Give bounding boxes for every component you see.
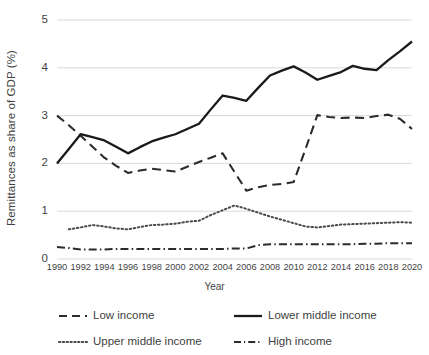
chart-legend: Low income Lower middle income Upper mid… <box>58 303 418 355</box>
legend-label-lower-middle-income: Lower middle income <box>268 310 377 322</box>
legend-swatch-solid-icon <box>233 310 263 322</box>
series-line-low-income <box>57 115 412 191</box>
series-line-lower-middle-income <box>57 42 412 164</box>
legend-swatch-dashdot-icon <box>233 336 263 348</box>
legend-item-upper-middle-income[interactable]: Upper middle income <box>58 336 233 348</box>
legend-item-high-income[interactable]: High income <box>233 336 418 348</box>
legend-item-lower-middle-income[interactable]: Lower middle income <box>233 310 418 322</box>
legend-label-low-income: Low income <box>93 310 154 322</box>
legend-label-high-income: High income <box>268 336 332 348</box>
legend-label-upper-middle-income: Upper middle income <box>93 336 202 348</box>
data-series-layer <box>57 42 412 250</box>
x-axis-title: Year <box>0 281 429 292</box>
chart-container: Remittances as share of GDP (%) 543210 1… <box>0 0 429 355</box>
legend-swatch-dotted-icon <box>58 336 88 348</box>
series-line-upper-middle-income <box>69 205 412 229</box>
series-line-high-income <box>57 243 412 249</box>
plot-area <box>0 0 429 355</box>
x-tick-label: 2020 <box>397 263 427 272</box>
legend-item-low-income[interactable]: Low income <box>58 310 233 322</box>
legend-swatch-dashed-icon <box>58 310 88 322</box>
gridlines <box>57 20 412 259</box>
